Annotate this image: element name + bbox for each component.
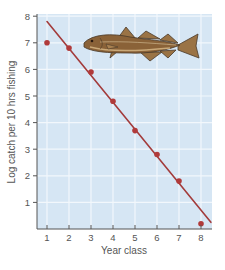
y-tick-label: 1 (25, 197, 30, 208)
y-axis-title: Log catch per 10 hrs fishing (6, 61, 17, 184)
data-point (88, 69, 94, 75)
y-tick-label: 8 (25, 11, 30, 22)
x-tick-label: 4 (110, 232, 115, 243)
catch-curve-chart: 12345678 12345678 Year class Log catch p… (0, 0, 225, 270)
x-tick-label: 6 (154, 232, 159, 243)
x-tick-label: 7 (176, 232, 181, 243)
x-tick-label: 1 (44, 232, 49, 243)
x-tick-label: 2 (66, 232, 71, 243)
y-tick-label: 2 (25, 170, 30, 181)
y-tick-label: 4 (25, 117, 30, 128)
y-tick-label: 6 (25, 64, 30, 75)
data-point (132, 128, 138, 134)
y-axis-ticks: 12345678 (25, 11, 37, 208)
x-tick-label: 3 (88, 232, 93, 243)
x-axis-title: Year class (101, 245, 147, 256)
data-point (154, 152, 160, 158)
y-tick-label: 7 (25, 37, 30, 48)
data-point (44, 40, 50, 46)
y-tick-label: 3 (25, 144, 30, 155)
y-tick-label: 5 (25, 91, 30, 102)
x-tick-label: 8 (198, 232, 203, 243)
data-point (66, 45, 72, 51)
x-tick-label: 5 (132, 232, 137, 243)
data-point (110, 99, 116, 105)
data-point (176, 178, 182, 184)
